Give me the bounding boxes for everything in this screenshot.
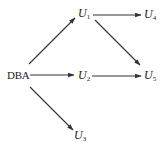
node-u5-label: U xyxy=(144,68,153,82)
node-u4-subscript: 4 xyxy=(153,14,157,22)
node-u1: U1 xyxy=(78,7,90,21)
node-u2-label: U xyxy=(78,68,87,82)
node-u5: U5 xyxy=(144,69,156,83)
node-u2: U2 xyxy=(78,69,90,83)
diagram-canvas: DBA U1 U4 U2 U5 U3 xyxy=(0,0,160,149)
node-u1-label: U xyxy=(78,6,87,20)
edge-dba-u1 xyxy=(29,18,75,64)
node-u3: U3 xyxy=(74,129,86,143)
node-dba-label: DBA xyxy=(7,69,29,81)
node-u1-subscript: 1 xyxy=(87,13,91,21)
node-u3-label: U xyxy=(74,128,83,142)
node-dba: DBA xyxy=(7,70,29,81)
node-u5-subscript: 5 xyxy=(153,75,157,83)
node-u4: U4 xyxy=(144,8,156,22)
edge-u1-u5 xyxy=(95,20,140,65)
node-u3-subscript: 3 xyxy=(83,135,87,143)
node-u4-label: U xyxy=(144,7,153,21)
node-u2-subscript: 2 xyxy=(87,75,91,83)
edge-dba-u3 xyxy=(30,87,73,130)
